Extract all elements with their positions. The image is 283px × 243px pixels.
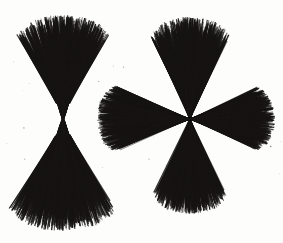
waist-point (189, 118, 191, 120)
figure-plate (0, 0, 283, 243)
brush-figures-illustration (0, 0, 283, 243)
